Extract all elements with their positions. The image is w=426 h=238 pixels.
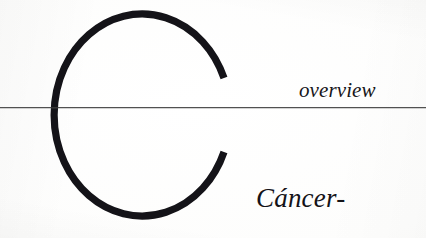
headword-text: Cáncer- [256,185,345,212]
horizontal-rule [0,107,426,108]
dropcap-c-initial [47,10,230,220]
running-head-text: overview [299,80,376,101]
dropcap-c-stroke [54,14,224,216]
scanned-page: overview Cáncer- [0,0,426,238]
